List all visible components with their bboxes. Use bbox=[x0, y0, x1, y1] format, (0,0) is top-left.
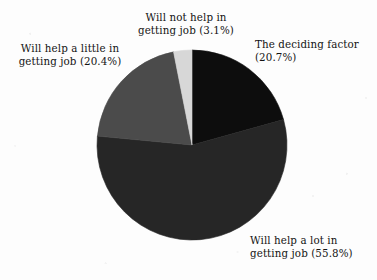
slice-label-will-help-a-lot: Will help a lot in getting job (55.8%) bbox=[250, 234, 376, 259]
pie-chart-figure: Will not help in getting job (3.1%) Will… bbox=[0, 0, 377, 280]
slice-label-will-help-a-little: Will help a little in getting job (20.4%… bbox=[4, 42, 136, 67]
slice-label-will-not-help: Will not help in getting job (3.1%) bbox=[118, 11, 254, 36]
slice-label-the-deciding-factor: The deciding factor (20.7%) bbox=[255, 38, 375, 63]
